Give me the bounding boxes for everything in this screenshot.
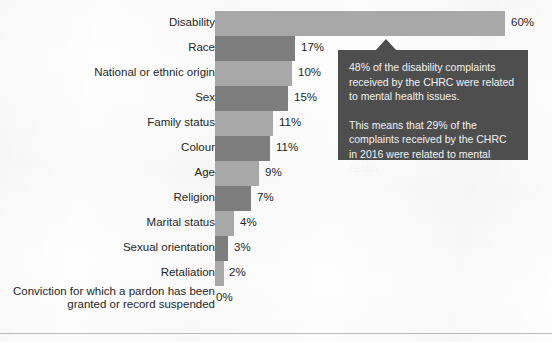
bar-retaliation	[215, 261, 224, 286]
bar-value-label: 0%	[216, 291, 233, 304]
bar-value-label: 11%	[276, 141, 298, 154]
bar-value-label: 10%	[298, 66, 321, 79]
bar-value-label: 60%	[511, 16, 534, 29]
bar-value-label: 11%	[279, 116, 301, 129]
chart-page: Disability 60% Race 17% National or ethn…	[0, 0, 552, 342]
category-label: Religion	[0, 191, 215, 204]
bar-national-or-ethnic-origin	[215, 61, 292, 86]
bar-value-label: 15%	[294, 91, 317, 104]
chart-row: Religion 7%	[0, 186, 552, 211]
chart-row: Conviction for which a pardon has been g…	[0, 286, 552, 311]
category-label: National or ethnic origin	[0, 66, 215, 79]
category-label: Sexual orientation	[0, 241, 215, 254]
bar-colour	[215, 136, 270, 161]
category-label: Disability	[0, 16, 215, 29]
chart-row: Disability 60%	[0, 11, 552, 36]
callout-paragraph: This means that 29% of the complaints re…	[349, 118, 517, 176]
bar-age	[215, 161, 259, 186]
bar-marital-status	[215, 211, 234, 236]
bar-disability	[215, 11, 505, 36]
category-label: Marital status	[0, 216, 215, 229]
horizontal-bar-chart: Disability 60% Race 17% National or ethn…	[0, 0, 552, 342]
bottom-divider	[0, 333, 552, 334]
category-label: Conviction for which a pardon has been g…	[0, 285, 215, 311]
bar-value-label: 3%	[234, 241, 251, 254]
bar-value-label: 17%	[301, 41, 324, 54]
bar-sexual-orientation	[215, 236, 228, 261]
bar-race	[215, 36, 295, 61]
category-label: Age	[0, 166, 215, 179]
bar-value-label: 4%	[240, 216, 257, 229]
category-label: Colour	[0, 141, 215, 154]
bar-family-status	[215, 111, 273, 136]
bar-value-label: 2%	[229, 266, 246, 279]
bar-value-label: 7%	[257, 191, 274, 204]
bar-value-label: 9%	[265, 166, 282, 179]
category-label: Race	[0, 41, 215, 54]
chart-row: Retaliation 2%	[0, 261, 552, 286]
category-label: Retaliation	[0, 266, 215, 279]
chart-row: Sexual orientation 3%	[0, 236, 552, 261]
category-label: Sex	[0, 91, 215, 104]
bar-sex	[215, 86, 288, 111]
disability-mental-health-callout: 48% of the disability complaints receive…	[338, 50, 528, 160]
category-label: Family status	[0, 116, 215, 129]
chart-row: Marital status 4%	[0, 211, 552, 236]
callout-paragraph: 48% of the disability complaints receive…	[349, 60, 517, 104]
bar-religion	[215, 186, 251, 211]
